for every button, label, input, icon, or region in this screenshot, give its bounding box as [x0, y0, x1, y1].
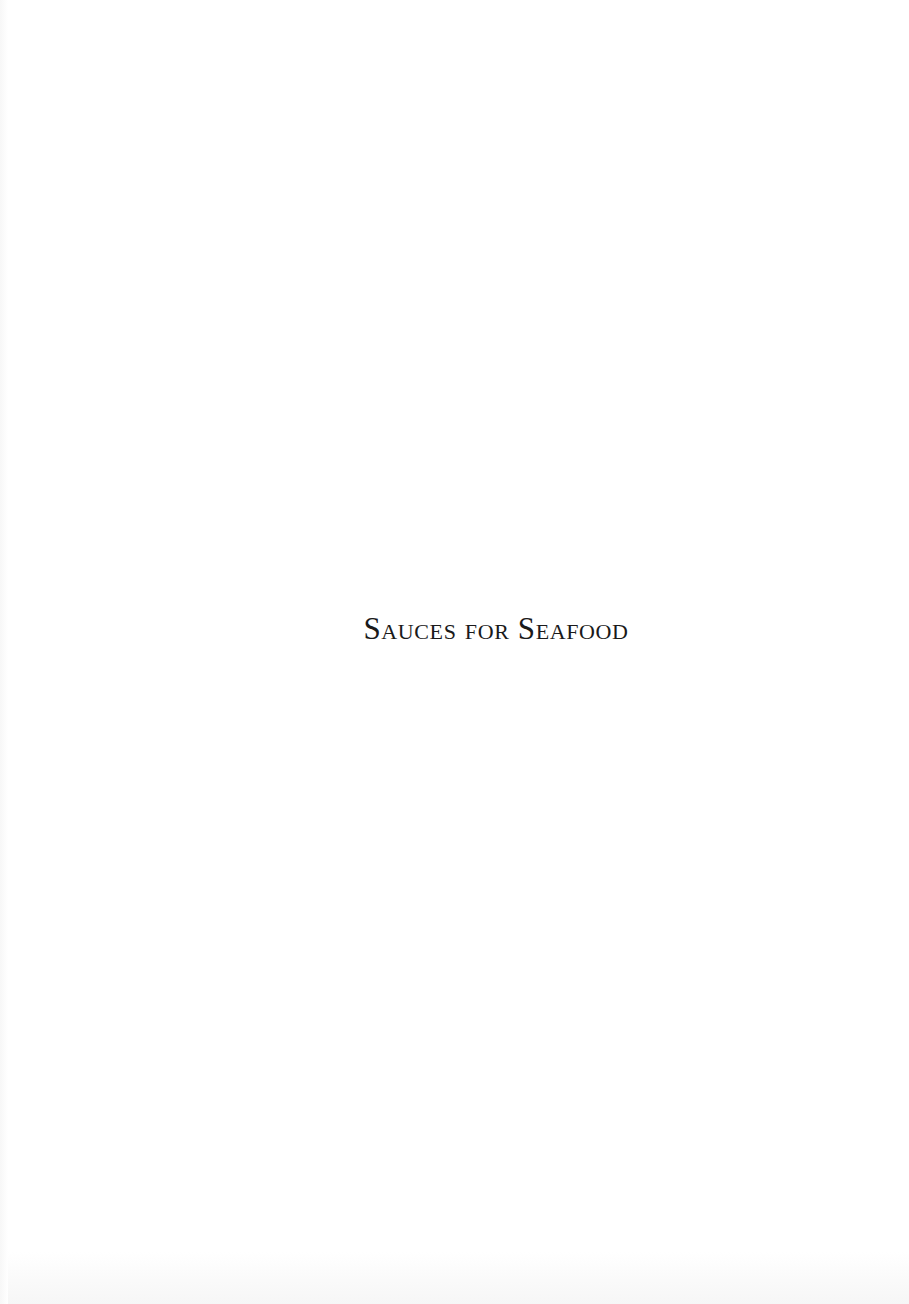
document-page: Sauces for Seafood [0, 0, 909, 1304]
section-title: Sauces for Seafood [0, 611, 909, 647]
